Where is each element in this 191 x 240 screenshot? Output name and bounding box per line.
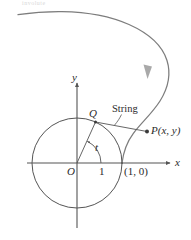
unit-point-label: (1, 0): [124, 166, 148, 177]
origin-label: O: [67, 166, 75, 177]
unit-point-marker: [121, 162, 123, 164]
x-axis-label: x: [175, 157, 180, 168]
radius-oq-segment: [77, 122, 96, 163]
point-q-dot: [94, 121, 97, 124]
y-axis-label: y: [72, 72, 77, 83]
string-leader-line: [115, 115, 122, 126]
string-label: String: [112, 104, 138, 115]
point-p-dot: [145, 130, 149, 134]
involute-figure: involute y x O 1 (1, 0) Q P(x, y) t Stri…: [0, 0, 191, 240]
involute-diagram-canvas: [0, 0, 191, 240]
point-q-label: Q: [89, 108, 97, 119]
unit-tick-label: 1: [99, 166, 105, 177]
angle-t-label: t: [95, 142, 98, 153]
involute-direction-arrow-icon: [144, 65, 153, 80]
faint-header-text: involute: [22, 0, 46, 6]
involute-curve: [18, 12, 169, 163]
point-p-label: P(x, y): [151, 125, 180, 136]
